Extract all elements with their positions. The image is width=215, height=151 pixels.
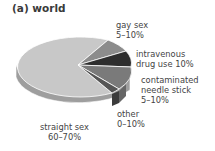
label-needle-stick: contaminated needle stick 5–10%: [141, 75, 199, 105]
label-intravenous: intravenous drug use 10%: [136, 49, 194, 69]
label-straight-sex: straight sex 60–70%: [40, 122, 89, 142]
label-gay-sex: gay sex 5–10%: [116, 20, 148, 40]
label-other: other 0–10%: [117, 109, 145, 129]
